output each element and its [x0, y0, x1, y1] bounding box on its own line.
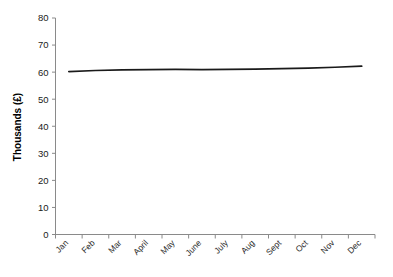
y-axis-tick-label: 10 — [38, 202, 49, 213]
y-axis-title: Thousands (£) — [12, 93, 23, 161]
chart-background — [0, 0, 393, 277]
y-axis-tick-label: 20 — [38, 175, 49, 186]
y-axis-tick-label: 70 — [38, 39, 49, 50]
y-axis-tick-label: 50 — [38, 94, 49, 105]
line-chart: 01020304050607080 JanFebMarAprilMayJuneJ… — [0, 0, 393, 277]
y-axis-tick-label: 0 — [43, 229, 48, 240]
y-axis-tick-label: 60 — [38, 67, 49, 78]
y-axis-tick-label: 40 — [38, 121, 49, 132]
y-axis-tick-label: 80 — [38, 12, 49, 23]
chart-canvas: 01020304050607080 JanFebMarAprilMayJuneJ… — [0, 0, 393, 277]
y-axis-tick-label: 30 — [38, 148, 49, 159]
y-axis-tick-labels: 01020304050607080 — [38, 12, 49, 240]
